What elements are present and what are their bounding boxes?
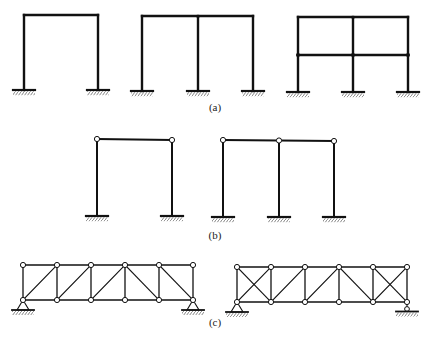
ground-hatch <box>268 218 290 222</box>
rigid-frame-3 <box>287 16 419 97</box>
hinge-icon <box>370 299 375 304</box>
fixed-support-icon <box>212 217 234 222</box>
diagonal-member <box>125 265 159 300</box>
truss-1 <box>12 262 204 315</box>
hinge-icon <box>94 136 99 141</box>
ground-hatch <box>86 217 108 221</box>
ground-hatch <box>342 93 364 97</box>
rigid-joint <box>406 53 410 57</box>
diagonal-member <box>159 265 193 300</box>
ground-hatch <box>131 92 153 96</box>
hinge-icon <box>276 138 281 143</box>
truss-2 <box>226 264 418 317</box>
hinge-icon <box>156 262 161 267</box>
panel-b-label: (b) <box>209 229 222 242</box>
rigid-joint <box>351 53 355 57</box>
hinge-icon <box>156 297 161 302</box>
hinge-icon <box>302 299 307 304</box>
rigid-joint <box>196 15 199 18</box>
fixed-support-icon <box>187 91 209 96</box>
fixed-support-icon <box>13 90 35 95</box>
fixed-support-icon <box>242 91 264 96</box>
hinge-icon <box>234 299 239 304</box>
hinge-icon <box>54 262 59 267</box>
hinge-icon <box>331 138 336 143</box>
ground-hatch <box>396 313 418 317</box>
beam <box>97 139 172 140</box>
ground-hatch <box>212 218 234 222</box>
ground-hatch <box>287 93 309 97</box>
hinge-icon <box>336 299 341 304</box>
ground-hatch <box>397 93 419 97</box>
panel-c-trusses <box>12 262 418 317</box>
diagonal-member <box>271 267 305 302</box>
hinge-icon <box>20 262 25 267</box>
hinge-icon <box>88 262 93 267</box>
rigid-frame-1 <box>13 15 109 95</box>
ground-hatch <box>13 91 35 95</box>
hinge-icon <box>122 297 127 302</box>
hinge-icon <box>302 264 307 269</box>
panel-a-rigid-frames <box>13 15 419 97</box>
ground-hatch <box>226 313 248 317</box>
hinge-icon <box>122 262 127 267</box>
hinge-icon <box>20 297 25 302</box>
rigid-joint <box>351 16 354 19</box>
hinge-icon <box>220 137 225 142</box>
panel-c-label: (c) <box>209 316 222 329</box>
ground-hatch <box>182 311 204 315</box>
ground-hatch <box>12 311 34 315</box>
ground-hatch <box>323 218 345 222</box>
hinge-icon <box>234 264 239 269</box>
ground-hatch <box>187 92 209 96</box>
hinged-frame-2 <box>212 137 345 222</box>
ground-hatch <box>242 92 264 96</box>
ground-hatch <box>87 91 109 95</box>
fixed-support-icon <box>323 217 345 222</box>
hinge-icon <box>370 264 375 269</box>
fixed-support-icon <box>287 92 309 97</box>
fixed-support-icon <box>86 216 108 221</box>
diagonal-member <box>305 267 339 302</box>
hinge-icon <box>190 297 195 302</box>
diagonal-member <box>57 265 91 300</box>
fixed-support-icon <box>397 92 419 97</box>
rigid-joint <box>296 53 300 57</box>
diagonal-member <box>339 267 373 302</box>
hinge-icon <box>88 297 93 302</box>
hinge-icon <box>268 299 273 304</box>
hinge-icon <box>336 264 341 269</box>
fixed-support-icon <box>131 91 153 96</box>
hinge-icon <box>404 264 409 269</box>
hinge-icon <box>268 264 273 269</box>
fixed-support-icon <box>87 90 109 95</box>
hinged-frame-1 <box>86 136 183 221</box>
fixed-support-icon <box>161 216 183 221</box>
hinge-icon <box>190 262 195 267</box>
fixed-support-icon <box>342 92 364 97</box>
rigid-frame-2 <box>131 15 264 96</box>
diagonal-member <box>91 265 125 300</box>
fixed-support-icon <box>268 217 290 222</box>
panel-b-hinged-frames <box>86 136 345 222</box>
hinge-icon <box>169 137 174 142</box>
panel-a-label: (a) <box>209 101 222 114</box>
hinge-icon <box>404 299 409 304</box>
diagonal-member <box>23 265 57 300</box>
ground-hatch <box>161 217 183 221</box>
structural-diagram: (a) (b) (c) <box>0 0 431 346</box>
hinge-icon <box>54 297 59 302</box>
